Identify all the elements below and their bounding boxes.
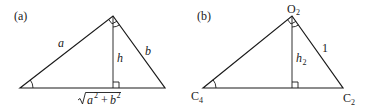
vertex-c2-base: C xyxy=(343,91,351,105)
right-angle-foot-marker-a xyxy=(113,82,119,88)
vertex-o2-base: O xyxy=(287,2,296,16)
base-term-a: a xyxy=(87,93,93,107)
panel-b: (b) O 2 h 2 1 C 4 C 2 xyxy=(191,2,355,107)
altitude-h2-label: h 2 xyxy=(296,51,307,67)
vertex-c2-label: C 2 xyxy=(343,91,355,107)
panel-a: (a) a h b a 2 + b 2 xyxy=(14,9,165,107)
vertex-c4-label: C 4 xyxy=(191,89,203,105)
angle-arc-left-b xyxy=(213,80,216,88)
base-label-a: a 2 + b 2 xyxy=(78,91,121,107)
panel-a-label: (a) xyxy=(14,9,27,23)
altitude-h2-base: h xyxy=(296,51,302,65)
base-term-b: b xyxy=(110,93,116,107)
vertex-c2-sub: 2 xyxy=(351,98,355,107)
triangle-a xyxy=(20,16,165,88)
altitude-h2-sub: 2 xyxy=(303,58,307,67)
figure: (a) a h b a 2 + b 2 (b) xyxy=(0,0,370,111)
side-a-label: a xyxy=(58,36,64,50)
altitude-h-label: h xyxy=(117,51,123,65)
panel-b-label: (b) xyxy=(197,9,211,23)
side-b-label: b xyxy=(145,44,151,58)
right-angle-foot-marker-b xyxy=(292,82,298,88)
angle-arc-apex-b xyxy=(292,25,298,27)
vertex-c4-base: C xyxy=(191,89,199,103)
vertex-c4-sub: 4 xyxy=(199,96,203,105)
base-plus: + xyxy=(101,93,108,107)
base-exp-b: 2 xyxy=(117,91,121,100)
angle-arc-apex-a xyxy=(113,25,119,27)
side-one-label: 1 xyxy=(322,41,328,55)
vertex-o2-sub: 2 xyxy=(296,8,300,17)
angle-arc-left-a xyxy=(30,80,33,88)
vertex-o2-label: O 2 xyxy=(287,2,300,17)
base-exp-a: 2 xyxy=(94,91,98,100)
